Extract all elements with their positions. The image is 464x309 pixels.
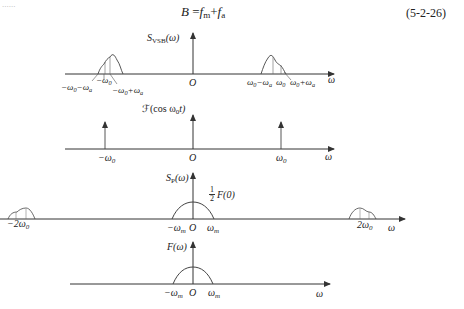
vsb-tick-w0-pos-wa: ω0+ωa — [290, 78, 315, 88]
t: 2ω — [357, 219, 369, 230]
t: ω — [208, 287, 215, 298]
carrier-panel — [65, 115, 334, 149]
baseband-tick-neg-wm: −ωm — [164, 288, 183, 300]
t: a — [140, 89, 143, 96]
carrier-x-label: ω — [325, 152, 332, 162]
t: ω — [207, 222, 214, 233]
product-tick-wm: ωm — [207, 223, 219, 235]
carrier-origin: O — [189, 153, 196, 163]
t: a — [89, 86, 92, 93]
carrier-y-label-arg: t) — [179, 103, 185, 114]
carrier-tick-w0: ω0 — [276, 153, 287, 165]
carrier-tick-neg-w0: −ω0 — [98, 153, 115, 165]
product-peak-label: 1 2 F(0) — [209, 186, 235, 203]
t: −ω — [96, 75, 108, 85]
product-pos-2w0-lobe — [349, 208, 376, 219]
carrier-y-label-main: ℱ(cos ω — [142, 103, 176, 114]
product-tick-neg-wm: −ωm — [167, 223, 186, 235]
product-tick-neg-2w0: −2ω0 — [7, 219, 29, 231]
product-tick-2w0: 2ω0 — [357, 220, 373, 232]
baseband-x-label: ω — [316, 289, 323, 299]
baseband-origin: O — [189, 288, 196, 298]
carrier-y-label: ℱ(cos ω0t) — [142, 104, 185, 116]
vsb-y-label-arg: (ω) — [166, 32, 180, 43]
t: 0 — [282, 81, 285, 88]
t: +ω — [300, 77, 312, 87]
fraction-den: 2 — [210, 195, 214, 203]
baseband-y-label: F(ω) — [167, 242, 187, 252]
t: m — [181, 227, 186, 235]
f0-label: F(0) — [217, 190, 235, 200]
t: 0 — [26, 223, 30, 231]
vsb-tick-w0: ω0 — [276, 78, 286, 88]
t: m — [178, 292, 183, 300]
t: −2ω — [7, 218, 26, 229]
vsb-tick-neg-w0: −ω0 — [96, 76, 112, 86]
vsb-y-label-sub: VSB — [152, 37, 166, 45]
t: m — [214, 227, 219, 235]
baseband-panel — [70, 242, 330, 284]
t: −ω — [98, 152, 112, 163]
t: a — [312, 81, 315, 88]
t: −ω — [164, 287, 178, 298]
product-x-label: ω — [388, 223, 395, 233]
vsb-left-lobe — [98, 55, 123, 74]
vsb-origin: O — [189, 78, 196, 88]
vsb-tick-neg-w0-neg-wa: −ω0−ωa — [61, 83, 92, 93]
t: ω — [276, 152, 283, 163]
half-fraction: 1 2 — [209, 186, 215, 203]
t: −ω — [112, 85, 124, 95]
product-origin: O — [189, 223, 196, 233]
product-panel — [0, 173, 405, 219]
vsb-tick-neg-w0-pos-wa: −ω0+ωa — [112, 86, 143, 96]
vsb-y-label: SVSB(ω) — [147, 33, 179, 45]
product-y-label: SP(ω) — [166, 173, 189, 185]
t: m — [215, 292, 220, 300]
vsb-x-label: ω — [328, 75, 335, 85]
spectrum-diagram — [0, 0, 464, 309]
t: −ω — [77, 82, 89, 92]
t: −ω — [167, 222, 181, 233]
t: a — [269, 81, 272, 88]
baseband-tick-wm: ωm — [208, 288, 220, 300]
t: 0 — [283, 157, 287, 165]
t: +ω — [128, 85, 140, 95]
t: 0 — [112, 157, 116, 165]
vsb-tick-w0-neg-wa: ω0−ωa — [247, 78, 272, 88]
t: 0 — [369, 224, 373, 232]
t: −ω — [257, 77, 269, 87]
t: −ω — [61, 82, 73, 92]
product-y-label-arg: (ω) — [175, 172, 189, 183]
vsb-right-lobe — [261, 55, 286, 74]
